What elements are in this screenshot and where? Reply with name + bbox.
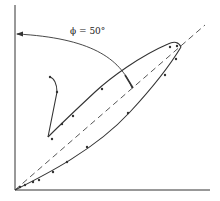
- arc-end-tick: [125, 75, 133, 88]
- hook-curve: [48, 77, 57, 137]
- data-points: [19, 45, 178, 188]
- angle-label: ϕ = 50°: [70, 26, 105, 36]
- upper-branch-curve: [48, 42, 181, 137]
- hysteresis-diagram: [0, 0, 220, 201]
- diagonal-dashed-line: [15, 25, 205, 190]
- arc-arrowhead-icon: [16, 32, 23, 37]
- angle-arc: [17, 34, 132, 88]
